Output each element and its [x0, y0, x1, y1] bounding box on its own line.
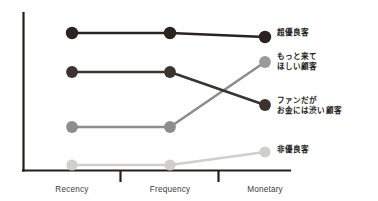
legend-label-fan-daga-okane-shibui-kokyaku: ファンだが お金には渋い顧客: [277, 96, 342, 115]
data-point: [164, 27, 176, 39]
data-point: [259, 146, 270, 157]
x-axis-label-recency: Recency: [39, 185, 105, 194]
legend-label-chou-yuuryoukyaku: 超優良客: [277, 28, 309, 38]
x-axis-label-monetary: Monetary: [232, 185, 298, 194]
legend-label-hiyuuryoukyaku: 非優良客: [277, 145, 309, 155]
chart-axes: [23, 13, 290, 182]
data-point: [66, 159, 77, 170]
data-point: [259, 56, 271, 68]
data-point: [164, 121, 176, 133]
data-point: [259, 99, 271, 111]
data-point: [66, 66, 78, 78]
series-line-fan-daga-okane-shibui-kokyaku: [66, 66, 271, 111]
data-point: [66, 121, 78, 133]
data-point: [164, 159, 175, 170]
data-point: [164, 66, 176, 78]
series-line-hiyuuryoukyaku: [66, 146, 270, 170]
x-axis-label-frequency: Frequency: [136, 185, 204, 194]
series-line-chou-yuuryoukyaku: [66, 27, 271, 43]
data-point: [66, 27, 78, 39]
legend-label-motto-kite-hoshii-kokyaku: もっと来て ほしい顧客: [277, 52, 318, 71]
data-point: [259, 31, 271, 43]
rfm-slope-chart: 超優良客 もっと来て ほしい顧客 ファンだが お金には渋い顧客 非優良客 Rec…: [0, 0, 378, 201]
